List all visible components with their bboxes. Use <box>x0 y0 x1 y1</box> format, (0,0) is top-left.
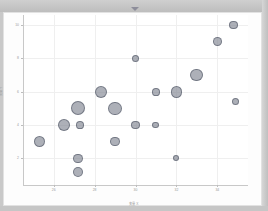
y-tick-label: 6 <box>5 90 19 94</box>
y-tick-label: 10 <box>5 23 19 27</box>
x-tick-mark <box>95 185 96 187</box>
y-tick-mark <box>21 25 23 26</box>
y-tick-mark <box>21 125 23 126</box>
x-tick-label: 26 <box>47 188 61 192</box>
x-tick-mark <box>217 185 218 187</box>
x-tick-label: 34 <box>210 188 224 192</box>
data-point-bubble[interactable] <box>110 137 119 146</box>
chart-window: 散布图：三变量气泡图 2468102628303234 变量 Y 变量 X <box>0 0 268 211</box>
data-point-bubble[interactable] <box>58 119 70 131</box>
data-point-bubble[interactable] <box>71 101 85 115</box>
x-tick-label: 28 <box>88 188 102 192</box>
data-point-bubble[interactable] <box>152 122 159 129</box>
y-tick-label: 8 <box>5 56 19 60</box>
y-axis-line <box>23 15 24 185</box>
window-titlebar <box>0 0 268 12</box>
data-point-bubble[interactable] <box>190 69 203 82</box>
plot-area[interactable] <box>23 15 248 185</box>
y-tick-label: 4 <box>5 123 19 127</box>
x-tick-mark <box>54 185 55 187</box>
window-right-edge <box>262 0 268 211</box>
y-tick-mark <box>21 158 23 159</box>
y-tick-label: 2 <box>5 156 19 160</box>
x-tick-mark <box>136 185 137 187</box>
data-point-bubble[interactable] <box>173 155 179 161</box>
data-point-bubble[interactable] <box>229 21 238 30</box>
x-tick-label: 30 <box>129 188 143 192</box>
y-tick-mark <box>21 92 23 93</box>
chevron-down-icon[interactable] <box>131 7 139 11</box>
data-point-bubble[interactable] <box>213 37 222 46</box>
data-point-bubble[interactable] <box>73 167 83 177</box>
data-point-bubble[interactable] <box>171 86 183 98</box>
y-tick-mark <box>21 58 23 59</box>
gridline-vertical <box>136 15 137 185</box>
data-point-bubble[interactable] <box>131 121 140 130</box>
data-point-bubble[interactable] <box>108 102 122 116</box>
data-point-bubble[interactable] <box>152 88 160 96</box>
x-tick-mark <box>176 185 177 187</box>
data-point-bubble[interactable] <box>132 55 139 62</box>
data-point-bubble[interactable] <box>95 86 107 98</box>
gridline-vertical <box>95 15 96 185</box>
x-tick-label: 32 <box>169 188 183 192</box>
y-axis-label: 变量 Y <box>0 87 3 96</box>
data-point-bubble[interactable] <box>73 154 82 163</box>
gridline-vertical <box>54 15 55 185</box>
window-bottom-edge <box>0 206 268 211</box>
data-point-bubble[interactable] <box>34 136 45 147</box>
data-point-bubble[interactable] <box>76 121 84 129</box>
data-point-bubble[interactable] <box>232 98 239 105</box>
